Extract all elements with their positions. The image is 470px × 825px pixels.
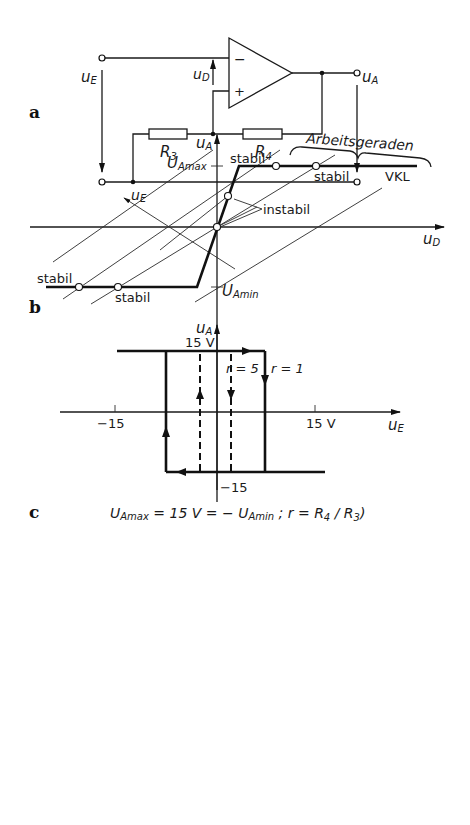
arrow-left-icon <box>176 468 186 476</box>
ground-junction <box>131 180 136 185</box>
work-line-3 <box>91 155 335 304</box>
label-ue-direction: uE <box>131 187 147 204</box>
label-ua: uA <box>362 68 379 86</box>
arrow-right-icon <box>242 347 252 355</box>
label-arbeitsgeraden: Arbeitsgeraden <box>305 130 415 154</box>
label-ue-c: uE <box>388 416 405 434</box>
label-stabil-bottom-left: stabil <box>37 271 72 286</box>
label-y-minus15: −15 <box>220 480 247 495</box>
stable-point <box>76 284 83 291</box>
arrow-down-icon <box>261 375 269 386</box>
plus-sign: + <box>234 84 245 99</box>
label-x-15v: 15 V <box>306 416 336 431</box>
output-terminal-bottom <box>354 179 360 185</box>
label-vkl: VKL <box>385 169 410 184</box>
resistor-r4 <box>243 129 282 139</box>
unstable-point <box>214 224 221 231</box>
label-stabil-top-right: stabil <box>314 169 349 184</box>
transfer-characteristic: uA uD uE UAmax UAmin Arbeitsgeraden stab… <box>29 130 444 490</box>
label-ud: uD <box>193 66 210 83</box>
stable-point <box>273 163 280 170</box>
arrow-up-icon <box>162 426 170 437</box>
label-uamin: UAmin <box>222 282 259 300</box>
output-terminal-top <box>354 70 360 76</box>
label-r5: r = 5 <box>226 361 259 376</box>
part-label-c: c <box>29 502 39 522</box>
label-ud-axis: uD <box>423 230 441 248</box>
arrow-down-icon <box>227 390 235 400</box>
label-ua-axis: uA <box>196 134 213 152</box>
hysteresis-diagram: uA 15 V r = 5 r = 1 −15 15 V uE −15 UAma… <box>29 319 405 523</box>
input-terminal-top <box>99 55 105 61</box>
label-instabil: instabil <box>263 202 310 217</box>
work-line-2 <box>63 150 280 299</box>
arrow-up-icon <box>196 389 204 399</box>
caption: UAmax = 15 V = − UAmin ; r = R4 / R3) <box>110 505 365 523</box>
label-r1: r = 1 <box>271 361 304 376</box>
ue-direction-arrow-icon <box>124 198 235 269</box>
label-ue: uE <box>81 68 98 86</box>
label-x-minus15: −15 <box>97 416 124 431</box>
resistor-r3 <box>149 129 187 139</box>
label-15v-top: 15 V <box>185 335 215 350</box>
label-stabil-top-left: stabil <box>230 151 265 166</box>
junction-node <box>211 132 216 137</box>
input-terminal-bottom <box>99 179 105 185</box>
minus-sign: − <box>234 51 246 67</box>
part-label-b: b <box>29 297 41 317</box>
label-stabil-bottom-right: stabil <box>115 290 150 305</box>
unstable-point <box>225 193 232 200</box>
label-uamax: UAmax <box>167 154 207 172</box>
part-label-a: a <box>29 102 40 122</box>
figure-canvas: − + uE uA uD R3 R4 a <box>0 0 470 825</box>
